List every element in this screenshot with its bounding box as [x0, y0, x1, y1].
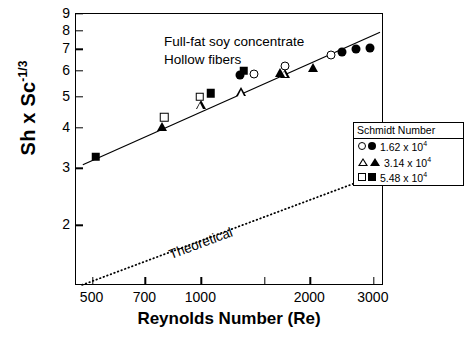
y-tick-mark: [76, 127, 83, 128]
data-point-circle-filled: [366, 43, 375, 52]
x-axis-label: Reynolds Number (Re): [75, 309, 383, 329]
y-axis-label-exponent: -1/3: [16, 60, 30, 81]
legend-entry-exponent: 4: [423, 171, 427, 178]
legend: Schmidt Number 1.62 x 1043.14 x 1045.48 …: [353, 122, 464, 186]
y-tick-label: 4: [50, 120, 70, 134]
legend-entry-label: 3.14 x 104: [384, 156, 431, 169]
x-tick-mark: [264, 277, 265, 284]
y-tick-mark: [76, 70, 83, 71]
x-tick-mark: [92, 277, 93, 284]
fit-line: [83, 32, 380, 164]
y-tick-label: 6: [50, 63, 70, 77]
x-tick-mark: [310, 277, 311, 284]
legend-entry: 1.62 x 104: [354, 139, 463, 155]
x-tick-label: 700: [133, 290, 156, 304]
x-tick-mark: [145, 277, 146, 284]
x-tick-mark: [373, 277, 374, 284]
x-tick-label: 3000: [357, 290, 388, 304]
legend-entry-label: 5.48 x 104: [380, 171, 427, 184]
legend-entry-exponent: 4: [427, 156, 431, 163]
legend-entry: 5.48 x 104: [354, 170, 463, 186]
y-tick-label: 7: [50, 41, 70, 55]
data-point-circle-filled: [338, 47, 347, 56]
data-point-circle-open: [326, 51, 335, 60]
y-tick-mark: [76, 13, 83, 14]
data-point-square-open: [196, 92, 205, 101]
y-tick-label: 9: [50, 6, 70, 20]
x-tick-mark: [201, 277, 202, 284]
theoretical-line: [82, 173, 381, 285]
x-tick-label: 500: [80, 290, 103, 304]
data-point-circle-filled: [352, 44, 361, 53]
y-tick-label: 3: [50, 160, 70, 174]
legend-entries: 1.62 x 1043.14 x 1045.48 x 104: [354, 139, 463, 186]
data-point-square-filled: [240, 66, 249, 75]
x-tick-label: 1000: [185, 290, 216, 304]
y-axis-label-base: Sh x Sc: [17, 82, 39, 156]
legend-marker-square-open: [358, 173, 366, 181]
y-axis-label: Sh x Sc-1/3: [16, 18, 40, 198]
y-tick-mark: [76, 49, 83, 50]
y-tick-label: 5: [50, 89, 70, 103]
data-point-circle-open: [249, 70, 258, 79]
legend-entry-label: 1.62 x 104: [380, 140, 427, 153]
legend-marker-circle-filled: [368, 142, 376, 150]
data-point-tri-filled: [275, 68, 285, 77]
legend-title: Schmidt Number: [354, 123, 463, 139]
y-tick-mark: [76, 30, 83, 31]
legend-marker-tri-filled: [370, 158, 380, 166]
data-point-square-filled: [206, 89, 215, 98]
y-tick-mark: [76, 96, 83, 97]
data-point-tri-open: [196, 100, 206, 109]
data-point-square-filled: [91, 153, 100, 162]
legend-marker-tri-open: [358, 158, 368, 166]
y-tick-mark: [76, 168, 83, 169]
y-tick-label: 2: [50, 217, 70, 231]
data-point-tri-filled: [157, 122, 167, 131]
x-tick-label: 2000: [294, 290, 325, 304]
legend-marker-square-filled: [368, 173, 376, 181]
legend-entry: 3.14 x 104: [354, 154, 463, 170]
y-tick-label: 8: [50, 23, 70, 37]
data-point-square-open: [160, 113, 169, 122]
legend-entry-exponent: 4: [423, 140, 427, 147]
y-tick-mark: [76, 225, 83, 226]
legend-marker-circle-open: [358, 142, 366, 150]
plot-area: Full-fat soy concentrate Hollow fibers T…: [75, 13, 383, 285]
data-point-tri-open: [236, 88, 246, 97]
data-point-tri-filled: [308, 63, 318, 72]
